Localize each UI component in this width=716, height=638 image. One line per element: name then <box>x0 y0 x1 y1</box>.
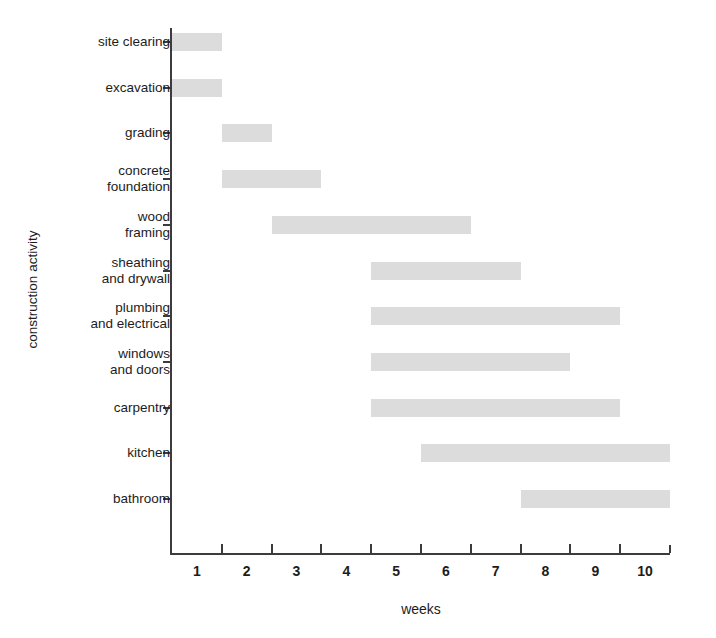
y-axis-tick-label: carpentry <box>114 400 170 416</box>
x-axis-left-cap <box>170 545 172 553</box>
x-axis-tick-label: 5 <box>392 563 400 579</box>
gantt-bar <box>421 444 670 462</box>
gantt-bar <box>371 399 620 417</box>
y-axis-tick-label: bathroom <box>113 491 170 507</box>
y-axis-tick-label: plumbing and electrical <box>90 300 170 332</box>
x-axis-title: weeks <box>401 601 441 617</box>
x-axis-tick-label: 6 <box>442 563 450 579</box>
gantt-bar <box>521 490 670 508</box>
x-axis-tick-label: 7 <box>492 563 500 579</box>
x-axis-tick-label: 8 <box>542 563 550 579</box>
x-axis-tick <box>221 544 223 553</box>
y-axis-title: construction activity <box>25 209 40 369</box>
gantt-bar <box>222 124 272 142</box>
x-axis-tick <box>520 544 522 553</box>
x-axis-tick-label: 4 <box>342 563 350 579</box>
x-axis-tick <box>470 544 472 553</box>
y-axis-tick-label: excavation <box>105 80 170 96</box>
x-axis-tick <box>320 544 322 553</box>
gantt-bar <box>222 170 322 188</box>
x-axis-line <box>170 553 670 555</box>
y-axis-tick-label: wood framing <box>125 209 170 241</box>
y-axis-line <box>170 28 172 553</box>
x-axis-tick-label: 10 <box>637 563 653 579</box>
x-axis-tick-label: 2 <box>243 563 251 579</box>
y-axis-tick-label: concrete foundation <box>107 163 170 195</box>
x-axis-tick-label: 9 <box>591 563 599 579</box>
gantt-bar <box>172 79 222 97</box>
gantt-bar <box>371 307 620 325</box>
y-axis-tick-label: grading <box>125 125 170 141</box>
x-axis-tick <box>370 544 372 553</box>
y-axis-tick-label: sheathing and drywall <box>102 255 170 287</box>
y-axis-tick-label: site clearing <box>98 34 170 50</box>
y-axis-tick-label: windows and doors <box>110 346 170 378</box>
x-axis-tick <box>420 544 422 553</box>
gantt-bar <box>272 216 471 234</box>
x-axis-right-cap <box>669 545 671 553</box>
x-axis-tick-label: 3 <box>293 563 301 579</box>
x-axis-tick <box>569 544 571 553</box>
gantt-bar <box>371 262 520 280</box>
gantt-bar <box>371 353 570 371</box>
x-axis-tick <box>271 544 273 553</box>
y-axis-tick-label: kitchen <box>127 445 170 461</box>
x-axis-tick <box>619 544 621 553</box>
gantt-bar <box>172 33 222 51</box>
gantt-chart: site clearingexcavationgradingconcrete f… <box>0 0 716 638</box>
x-axis-tick-label: 1 <box>193 563 201 579</box>
